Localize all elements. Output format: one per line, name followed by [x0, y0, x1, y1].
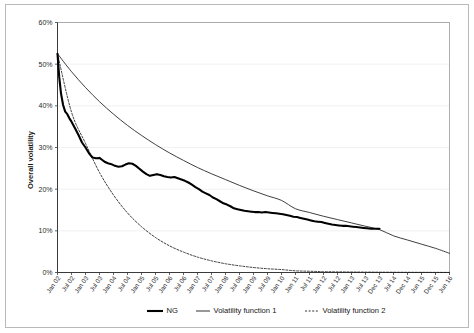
- x-tick-label: Jan 04: [101, 274, 118, 294]
- y-axis-title: Overall volatility: [26, 130, 35, 189]
- chart-legend: NGVolatility function 1Volatility functi…: [147, 306, 385, 315]
- x-axis-tick-labels: Jan 02Jul 02Jan 03Jul 03Jan 04Jul 04Jan …: [45, 274, 454, 295]
- x-tick-label: Jan 03: [73, 274, 90, 294]
- y-tick-label: 60%: [38, 19, 52, 26]
- series-line-volatility-function-1: [58, 54, 450, 254]
- y-tick-label: 40%: [38, 102, 52, 109]
- y-axis-tick-labels: 0%10%20%30%40%50%60%: [38, 19, 52, 276]
- x-tick-label: Jan 08: [213, 274, 230, 294]
- y-tick-label: 30%: [38, 144, 52, 151]
- volatility-line-chart: 0%10%20%30%40%50%60% Jan 02Jul 02Jan 03J…: [0, 0, 474, 333]
- legend-label: NG: [167, 306, 178, 315]
- x-tick-label: Jun 16: [437, 274, 454, 294]
- x-tick-label: Jan 11: [283, 274, 300, 294]
- x-tick-label: Jan 13: [339, 274, 356, 294]
- x-tick-label: Jan 09: [241, 274, 258, 294]
- y-tick-label: 50%: [38, 61, 52, 68]
- x-tick-label: Jan 06: [157, 274, 174, 294]
- y-tick-label: 20%: [38, 186, 52, 193]
- series-line-volatility-function-2: [58, 54, 450, 273]
- x-tick-label: Dec 13: [366, 274, 384, 295]
- y-tick-label: 0%: [42, 269, 52, 276]
- x-tick-label: Jan 12: [311, 274, 328, 294]
- x-tick-label: Jan 07: [185, 274, 202, 294]
- y-tick-label: 10%: [38, 227, 52, 234]
- legend-label: Volatility function 2: [323, 306, 386, 315]
- chart-figure: 0%10%20%30%40%50%60% Jan 02Jul 02Jan 03J…: [0, 0, 474, 333]
- x-tick-label: Jan 10: [269, 274, 286, 294]
- legend-label: Volatility function 1: [214, 306, 277, 315]
- x-tick-label: Dec 14: [394, 274, 412, 295]
- x-tick-label: Jan 05: [129, 274, 146, 294]
- x-tick-label: Dec 15: [422, 274, 440, 295]
- x-tick-label: Jan 02: [45, 274, 62, 294]
- series-line-ng: [58, 54, 380, 229]
